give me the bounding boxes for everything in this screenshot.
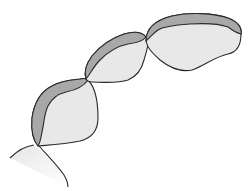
segment-upper	[146, 14, 241, 71]
segment-middle	[85, 32, 147, 82]
segment-diagram	[0, 0, 248, 191]
segment-lower	[32, 78, 98, 146]
segment-base	[10, 145, 68, 187]
